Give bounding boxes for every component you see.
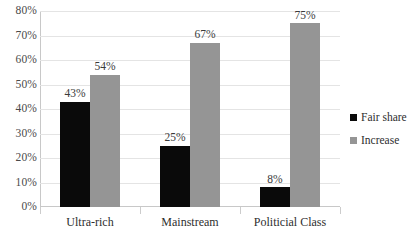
legend-item-increase: Increase — [350, 135, 407, 147]
y-tick-label: 80% — [0, 5, 37, 17]
y-tick-label: 70% — [0, 30, 37, 42]
bar-value-label: 43% — [64, 88, 85, 100]
bar-chart: 80% 70% 60% 50% 40% 30% 20% 10% 0% 43% 5… — [0, 0, 413, 242]
legend: Fair share Increase — [350, 112, 407, 157]
bar-fair-share-mainstream: 25% — [160, 146, 190, 207]
y-axis: 80% 70% 60% 50% 40% 30% 20% 10% 0% — [0, 11, 37, 207]
y-tick-label: 40% — [0, 103, 37, 115]
y-tick-label: 50% — [0, 79, 37, 91]
bar-group-political-class: 8% 75% — [240, 11, 340, 207]
bar-value-label: 75% — [294, 10, 315, 22]
bar-group-ultra-rich: 43% 54% — [40, 11, 140, 207]
bar-value-label: 54% — [94, 61, 115, 73]
x-axis-tick — [40, 207, 41, 214]
x-axis-tick — [140, 207, 141, 214]
legend-label: Fair share — [361, 112, 407, 124]
x-axis-tick — [240, 207, 241, 214]
y-tick-label: 10% — [0, 177, 37, 189]
y-tick-label: 0% — [0, 201, 37, 213]
x-axis-label-mainstream: Mainstream — [140, 216, 240, 229]
y-tick-label: 20% — [0, 152, 37, 164]
y-tick-label: 60% — [0, 54, 37, 66]
legend-swatch-icon — [350, 137, 357, 144]
bar-value-label: 67% — [194, 29, 215, 41]
x-axis-label-political-class: Politicial Class — [240, 216, 340, 229]
legend-label: Increase — [361, 135, 399, 147]
bar-fair-share-political-class: 8% — [260, 187, 290, 207]
legend-item-fair-share: Fair share — [350, 112, 407, 124]
bar-value-label: 8% — [267, 174, 282, 186]
x-axis-tick — [340, 207, 341, 214]
bar-fair-share-ultra-rich: 43% — [60, 102, 90, 207]
bar-increase-ultra-rich: 54% — [90, 75, 120, 207]
bar-value-label: 25% — [164, 132, 185, 144]
legend-swatch-icon — [350, 114, 357, 121]
bar-increase-political-class: 75% — [290, 23, 320, 207]
x-axis-label-ultra-rich: Ultra-rich — [40, 216, 140, 229]
y-tick-label: 30% — [0, 128, 37, 140]
bar-increase-mainstream: 67% — [190, 43, 220, 207]
plot-area: 43% 54% 25% 67% 8% — [40, 11, 340, 207]
bar-group-mainstream: 25% 67% — [140, 11, 240, 207]
